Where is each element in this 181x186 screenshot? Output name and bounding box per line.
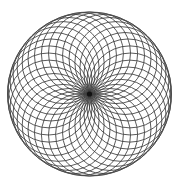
- center-core-dot: [87, 91, 92, 96]
- rosette-figure: [0, 0, 181, 186]
- rosette-svg: [0, 0, 181, 186]
